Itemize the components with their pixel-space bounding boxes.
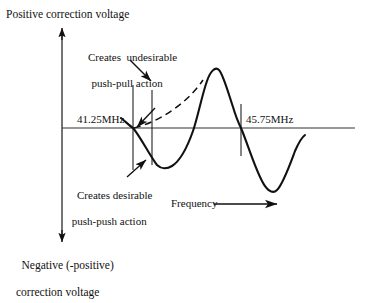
negative-correction-voltage-line1: Negative (-positive) — [22, 259, 114, 271]
desirable-annotation-arrow — [127, 160, 146, 177]
negative-correction-voltage-label: Negative (-positive) correction voltage — [10, 245, 114, 303]
desirable-annotation-label: Creates desirable push-push action — [66, 176, 152, 254]
positive-correction-voltage-label: Positive correction voltage — [6, 8, 129, 22]
frequency-marker-label-left: 41.25MHz — [77, 113, 124, 126]
frequency-marker-label-right: 45.75MHz — [246, 113, 293, 126]
frequency-axis-label: Frequency — [171, 197, 217, 210]
desirable-annotation-line2: push-push action — [66, 215, 152, 228]
undesirable-annotation-line2: push-pull action — [77, 77, 177, 90]
desirable-annotation-line1: Creates desirable — [77, 189, 152, 201]
negative-correction-voltage-line2: correction voltage — [10, 286, 114, 300]
undesirable-annotation-label: Creates undesirable push-pull action — [77, 38, 177, 116]
undesirable-annotation-line1: Creates undesirable — [88, 51, 177, 63]
